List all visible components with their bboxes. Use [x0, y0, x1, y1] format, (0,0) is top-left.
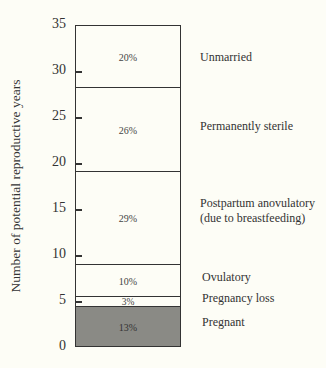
y-tick-30	[75, 71, 82, 73]
y-tick-label-5: 5	[44, 292, 66, 308]
y-tick-5	[75, 301, 82, 303]
segment-pct-unmarried: 20%	[76, 51, 180, 62]
y-tick-label-25: 25	[44, 108, 66, 124]
segment-pregnant: 13%	[76, 306, 180, 346]
segment-pct-ovulatory: 10%	[76, 275, 180, 286]
segment-postpartum: 29%	[76, 171, 180, 264]
segment-pct-loss: 3%	[76, 297, 180, 307]
y-tick-25	[75, 117, 82, 119]
segment-ovulatory: 10%	[76, 264, 180, 296]
y-axis-label: Number of potential reproductive years	[8, 80, 24, 293]
y-tick-label-0: 0	[44, 338, 66, 354]
label-pregnancy-loss: Pregnancy loss	[202, 291, 274, 306]
label-ovulatory: Ovulatory	[202, 270, 251, 285]
label-permanently-sterile: Permanently sterile	[200, 119, 293, 134]
segment-pct-pregnant: 13%	[76, 321, 180, 332]
y-tick-10	[75, 255, 82, 257]
y-tick-label-15: 15	[44, 200, 66, 216]
y-tick-20	[75, 163, 82, 165]
y-tick-label-35: 35	[44, 16, 66, 32]
y-tick-15	[75, 209, 82, 211]
stacked-bar: 20% 26% 29% 10% 3% 13%	[75, 25, 181, 347]
segment-pct-sterile: 26%	[76, 124, 180, 135]
label-postpartum-line1: Postpartum anovulatory	[200, 196, 315, 211]
y-tick-label-20: 20	[44, 154, 66, 170]
label-unmarried: Unmarried	[200, 50, 252, 65]
segment-pct-postpartum: 29%	[76, 213, 180, 224]
label-pregnant: Pregnant	[202, 315, 245, 330]
segment-sterile: 26%	[76, 87, 180, 171]
segment-pregnancy-loss: 3%	[76, 296, 180, 306]
label-postpartum: Postpartum anovulatory (due to breastfee…	[200, 196, 315, 226]
y-tick-label-10: 10	[44, 246, 66, 262]
label-postpartum-line2: (due to breastfeeding)	[200, 211, 315, 226]
y-tick-label-30: 30	[44, 62, 66, 78]
segment-unmarried: 20%	[76, 26, 180, 87]
